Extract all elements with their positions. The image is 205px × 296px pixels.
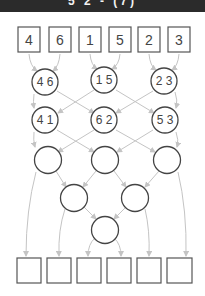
node-value: 2 3	[156, 74, 173, 88]
empty-node	[61, 185, 88, 212]
output-box	[137, 258, 161, 283]
node-value: 4 6	[37, 75, 54, 89]
output-box	[47, 258, 71, 283]
empty-node	[92, 147, 119, 174]
output-box	[17, 258, 41, 283]
input-value: 1	[86, 32, 94, 48]
input-value: 3	[175, 32, 183, 48]
empty-node	[35, 147, 62, 174]
input-value: 5	[116, 32, 124, 48]
input-value: 6	[56, 32, 64, 48]
output-box	[107, 258, 131, 283]
input-boxes: 4 6 1 5 2 3	[18, 27, 190, 52]
empty-node	[92, 217, 119, 244]
level1-nodes: 4 6 1 5 2 3	[32, 67, 177, 95]
merge-diagram: 4 6 1 5 2 3 4 6 1 5 2 3 4 1 6 2 5 3	[0, 0, 205, 296]
level3-nodes	[35, 147, 181, 174]
level5-nodes	[92, 217, 119, 244]
output-box	[167, 258, 192, 283]
input-value: 2	[145, 32, 153, 48]
empty-node	[154, 147, 181, 174]
level4-nodes	[61, 185, 149, 212]
node-value: 4 1	[37, 113, 54, 127]
node-value: 1 5	[96, 73, 113, 87]
node-value: 5 3	[157, 113, 174, 127]
output-boxes	[17, 258, 192, 283]
empty-node	[122, 185, 149, 212]
node-value: 6 2	[96, 113, 113, 127]
output-box	[77, 258, 101, 283]
level2-nodes: 4 1 6 2 5 3	[32, 107, 178, 133]
input-value: 4	[25, 32, 33, 48]
